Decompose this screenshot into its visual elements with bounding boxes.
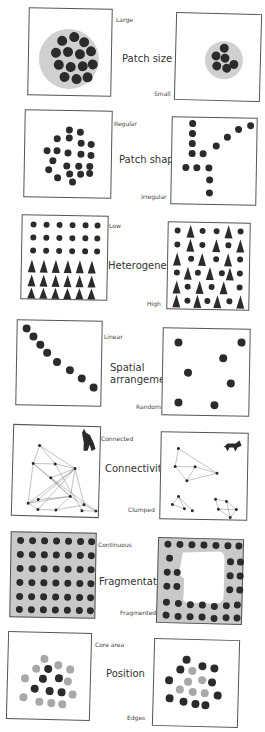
deciduous-tree-icon — [43, 126, 95, 186]
high-heterogeneity-graphic — [167, 222, 252, 311]
low-heterogeneity-graphic — [21, 215, 109, 302]
label-fragmented: Fragmented — [120, 609, 156, 616]
edges-graphic — [153, 639, 241, 729]
spatial-linear-frame — [15, 319, 102, 406]
label-large: Large — [116, 16, 133, 23]
deciduous-tree-icon-dark — [164, 655, 222, 709]
patch-shape-regular-frame — [23, 109, 113, 199]
wolf-icon — [82, 429, 97, 451]
label-irregular: Irregular — [141, 193, 167, 200]
label-linear: Linear — [104, 333, 123, 340]
label-connected: Connected — [101, 435, 133, 442]
label-low: Low — [109, 222, 121, 229]
spatial-random-frame — [161, 327, 251, 417]
deciduous-tree-icon — [22, 324, 99, 391]
fox-icon — [223, 440, 241, 451]
deciduous-tree-icon-light — [19, 654, 77, 708]
title-position: Position — [106, 668, 145, 680]
connectivity-connected-frame — [11, 424, 101, 518]
connected-network-graphic — [12, 425, 102, 519]
fragmented-habitat-graphic — [157, 538, 245, 626]
regular-patch-graphic — [24, 110, 114, 200]
irregular-patch-graphic — [171, 117, 259, 206]
title-patch-size: Patch size — [122, 53, 172, 65]
random-arrangement-graphic — [162, 328, 252, 418]
position-edges-frame — [152, 638, 240, 728]
large-patch-graphic — [28, 8, 114, 97]
conifer-tree-icon — [172, 224, 245, 308]
connectivity-clumped-frame — [159, 431, 249, 521]
label-continuous: Continuous — [98, 541, 132, 548]
fragmentation-continuous-frame — [9, 531, 96, 618]
label-high: High — [147, 300, 161, 307]
linear-arrangement-graphic — [16, 320, 103, 407]
fragmentation-fragmented-frame — [156, 537, 244, 625]
label-random: Random — [136, 403, 161, 410]
clumped-network-graphic — [160, 432, 250, 522]
patch-size-large-frame — [27, 7, 113, 96]
small-patch-graphic — [175, 13, 263, 103]
heterogeneity-high-frame — [166, 221, 251, 310]
label-edges: Edges — [127, 714, 145, 721]
deciduous-tree-icon — [173, 337, 245, 409]
core-area-graphic — [7, 632, 93, 722]
patch-shape-irregular-frame — [170, 116, 258, 205]
deciduous-tree-icon — [30, 221, 101, 254]
title-spatial-line1: Spatial — [110, 362, 144, 374]
label-small: Small — [154, 90, 171, 97]
deciduous-tree-icon — [173, 227, 243, 304]
position-core-frame — [6, 631, 92, 721]
patch-size-small-frame — [174, 12, 262, 102]
conifer-tree-icon — [27, 259, 96, 299]
continuous-habitat-graphic — [10, 532, 97, 619]
title-connectivity: Connectivity — [105, 463, 168, 475]
deciduous-tree-icon — [182, 120, 254, 197]
label-regular: Regular — [114, 120, 137, 127]
label-clumped: Clumped — [128, 506, 155, 513]
habitat-gap — [178, 550, 225, 603]
heterogeneity-low-frame — [20, 214, 108, 301]
label-core-area: Core area — [95, 641, 124, 648]
deciduous-tree-icon — [16, 537, 95, 614]
